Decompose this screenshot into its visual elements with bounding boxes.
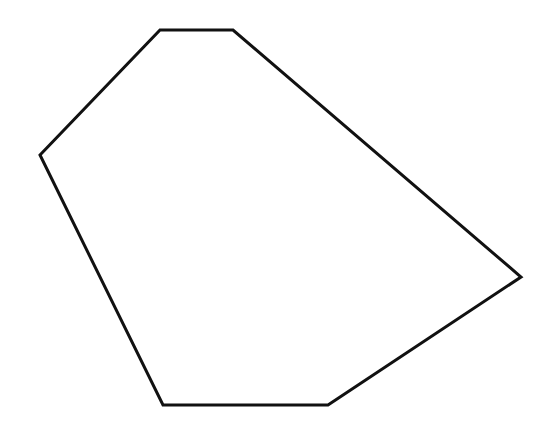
diagram-canvas <box>0 0 554 429</box>
